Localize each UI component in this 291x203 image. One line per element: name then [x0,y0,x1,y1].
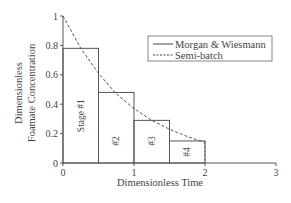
x-ticks: 0123 [61,163,279,178]
x-axis-title: Dimensionless Time [117,177,203,188]
y-axis-title-line2: Foamate Concentration [26,43,37,142]
y-tick-label: 0.4 [46,99,59,110]
legend-label-semi-batch: Semi-batch [175,50,224,61]
stage-label: #4 [182,147,192,157]
stage-label: #2 [111,136,121,146]
y-tick-label: 0.6 [46,69,59,80]
series-morgan-wiesmann: Stage #1#2#3#4 [63,48,205,163]
x-tick-label: 3 [274,167,279,178]
x-tick-label: 0 [61,167,66,178]
y-tick-label: 0 [53,158,58,169]
legend: Morgan & Wiesmann Semi-batch [148,36,272,61]
chart-canvas: 00.20.40.60.81 0123 Stage #1#2#3#4 Dimen… [0,0,291,203]
stage-label: Stage #1 [76,99,86,132]
stage-bar [99,92,135,163]
legend-label-morgan-wiesmann: Morgan & Wiesmann [175,39,267,50]
y-ticks: 00.20.40.60.81 [46,11,64,169]
y-tick-label: 0.2 [46,128,59,139]
stage-label: #3 [147,136,157,146]
x-tick-label: 2 [203,167,208,178]
y-axis-title-line1: Dimensionless [13,62,24,124]
y-tick-label: 0.8 [46,40,59,51]
y-tick-label: 1 [53,11,58,22]
